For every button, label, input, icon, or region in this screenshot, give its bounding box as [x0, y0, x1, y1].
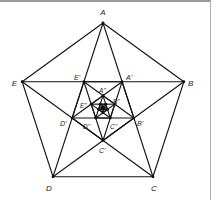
vertex-dot-1-1	[71, 117, 74, 120]
label-D-prime: D'	[60, 120, 67, 127]
inner-pentagon-edge-0	[103, 118, 134, 140]
label-C-double-prime: C''	[110, 123, 118, 130]
label-B: B	[188, 79, 194, 88]
vertex-dot-3-0	[102, 111, 105, 114]
vertex-dot-3-3	[104, 103, 107, 106]
vertex-dot-0-0	[102, 22, 105, 25]
inner-pentagon-edge-0	[72, 82, 84, 118]
pentagon-edge-0	[103, 23, 184, 82]
label-C: C	[151, 184, 157, 193]
vertex-dot-0-2	[152, 175, 155, 178]
pentagram-diagram: A B C D E A' B' C' D' E' A'' B'' C'' D''…	[0, 0, 216, 200]
label-E-double-prime: E''	[80, 102, 88, 109]
label-D: D	[46, 184, 52, 193]
vertex-dot-1-0	[102, 139, 105, 142]
pentagon-edge-0	[22, 23, 103, 82]
label-B-double-prime: B''	[113, 98, 121, 105]
label-A: A	[99, 8, 105, 17]
vertex-dot-2-2	[109, 117, 112, 120]
pentagon-edge-0	[22, 82, 53, 177]
label-C-prime: C'	[99, 147, 106, 154]
label-B-prime: B'	[137, 120, 144, 127]
label-E: E	[12, 79, 18, 88]
label-A-prime: A'	[125, 74, 133, 81]
label-E-prime: E'	[74, 74, 81, 81]
label-A-double-prime: A''	[98, 87, 107, 94]
vertex-dot-3-2	[99, 103, 102, 106]
label-D-double-prime: D''	[83, 123, 91, 130]
vertex-dot-1-2	[83, 80, 86, 83]
vertex-dot-3-1	[97, 108, 100, 111]
inner-pentagon-edge-0	[122, 82, 134, 118]
vertex-dot-2-4	[90, 103, 93, 106]
vertex-dot-0-3	[52, 175, 55, 178]
vertex-dot-2-3	[94, 117, 97, 120]
vertex-dot-2-0	[102, 94, 105, 97]
vertex-dot-0-4	[21, 80, 24, 83]
pentagon-edge-0	[153, 82, 184, 177]
vertex-dot-1-4	[132, 117, 135, 120]
vertex-dot-0-1	[182, 80, 185, 83]
vertex-dot-1-3	[121, 80, 124, 83]
vertex-dot-3-4	[106, 108, 109, 111]
